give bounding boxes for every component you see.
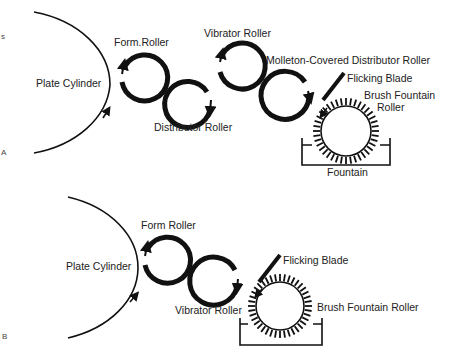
molleton-roller-a <box>261 71 310 119</box>
label-form-roller-a: Form.Roller <box>114 36 169 48</box>
label-plate-cylinder-b: Plate Cylinder <box>66 260 131 272</box>
label-molleton-roller-a: Molleton-Covered Distributor Roller <box>266 54 430 66</box>
label-form-roller-b: Form Roller <box>141 219 196 231</box>
label-brush-fountain-a-2: Roller <box>377 101 404 113</box>
brush-fountain-roller-a <box>313 98 379 164</box>
label-flicking-blade-b: Flicking Blade <box>283 254 348 266</box>
vibrator-roller-a <box>220 43 265 89</box>
flicking-blade-a <box>323 73 344 100</box>
label-brush-fountain-b: Brush Fountain Roller <box>317 301 419 313</box>
panel-label-b: B <box>2 332 7 341</box>
label-flicking-blade-a: Flicking Blade <box>347 72 412 84</box>
form-roller-a <box>122 55 168 101</box>
flicking-blade-b <box>259 255 280 282</box>
label-plate-cylinder-a: Plate Cylinder <box>36 77 101 89</box>
label-vibrator-roller-b: Vibrator Roller <box>175 304 242 316</box>
panel-label-a: A <box>1 148 6 157</box>
form-roller-b <box>145 237 190 283</box>
fountain-tray-b <box>240 318 322 345</box>
label-vibrator-roller-a: Vibrator Roller <box>204 27 271 39</box>
label-brush-fountain-a-1: Brush Fountain <box>364 89 435 101</box>
edge-mark-a: s <box>1 32 5 41</box>
label-fountain-a: Fountain <box>327 166 368 178</box>
brush-fountain-roller-b <box>248 274 312 338</box>
label-distributor-roller-a: Distributor Roller <box>154 121 232 133</box>
vibrator-roller-b <box>190 257 238 305</box>
